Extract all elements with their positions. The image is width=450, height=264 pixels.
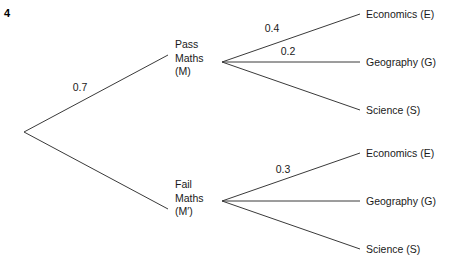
branch-pass-maths-to-outcome-2 [222, 62, 360, 110]
outcome-label: Economics (E) [366, 8, 434, 21]
branch-root-to-fail-maths [24, 132, 168, 209]
node-label-line: (M′) [175, 205, 204, 219]
node-label-pass-maths: PassMaths(M) [175, 38, 204, 79]
node-label-line: Fail [175, 178, 204, 192]
outcome-label: Geography (G) [366, 56, 436, 69]
outcome-label: Economics (E) [366, 147, 434, 160]
node-label-line: Pass [175, 38, 204, 52]
outcome-label: Science (S) [366, 104, 420, 117]
probability-pass-maths-outcome-0: 0.4 [265, 22, 280, 35]
branch-fail-maths-to-outcome-0 [222, 153, 360, 201]
question-number: 4 [4, 6, 10, 20]
node-label-fail-maths: FailMaths(M′) [175, 178, 204, 219]
branch-root-to-pass-maths [24, 55, 168, 132]
probability-tree-diagram [0, 0, 450, 264]
outcome-label: Geography (G) [366, 195, 436, 208]
probability-fail-maths-outcome-0: 0.3 [276, 163, 291, 176]
node-label-line: (M) [175, 65, 204, 79]
branch-fail-maths-to-outcome-2 [222, 201, 360, 249]
node-label-line: Maths [175, 192, 204, 206]
outcome-label: Science (S) [366, 243, 420, 256]
probability-pass-maths: 0.7 [73, 81, 88, 94]
node-label-line: Maths [175, 52, 204, 66]
probability-pass-maths-outcome-1: 0.2 [281, 45, 296, 58]
